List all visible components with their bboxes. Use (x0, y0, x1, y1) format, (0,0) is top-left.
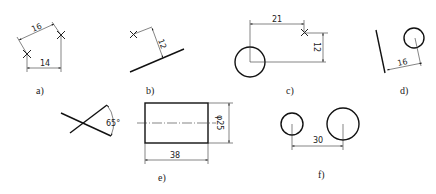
figure-e-angle: 65° (61, 105, 120, 136)
dim-16-a: 16 (30, 21, 43, 33)
caption-a: a) (36, 85, 44, 97)
inclined-line (376, 30, 385, 73)
figure-e-cylinder: φ25 38 e) (137, 103, 233, 184)
figure-c: 21 12 c) (235, 15, 328, 97)
dim-65-angle: 65° (106, 119, 120, 128)
caption-f: f) (318, 169, 325, 181)
figure-b: 12 b) (130, 27, 184, 97)
dim-21-c: 21 (272, 15, 282, 24)
figure-f: 30 f) (281, 108, 359, 181)
circle (404, 28, 424, 48)
caption-d: d) (400, 85, 408, 97)
dim-14-a: 14 (40, 59, 50, 68)
inclined-line (130, 49, 184, 72)
dim-12-b: 12 (156, 38, 168, 51)
dim-30-f: 30 (313, 136, 323, 145)
figure-a: 16 14 a) (17, 21, 65, 97)
dim-diameter-25: φ25 (215, 115, 224, 130)
cross-point (130, 31, 137, 38)
cross-point (301, 29, 308, 36)
dimensioning-exercises-diagram: 16 14 a) 12 b) 21 12 c) (0, 0, 436, 194)
caption-c: c) (286, 85, 294, 97)
caption-b: b) (146, 85, 154, 97)
figure-d: 16 d) (376, 28, 424, 97)
dim-38: 38 (170, 151, 180, 160)
dim-12-c: 12 (312, 42, 321, 52)
caption-e: e) (158, 172, 166, 184)
